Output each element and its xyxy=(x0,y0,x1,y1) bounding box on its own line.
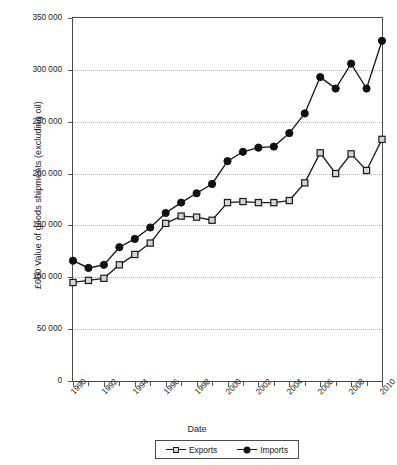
x-axis-title: Date xyxy=(0,424,394,434)
legend-item-imports: Imports xyxy=(237,445,288,455)
x-tick-label: 1992 xyxy=(100,377,119,396)
x-tick-label: 2008 xyxy=(347,377,366,396)
legend-label-exports: Exports xyxy=(189,445,217,455)
legend-swatch-exports xyxy=(166,449,186,450)
filled-circle-marker-icon xyxy=(244,447,251,454)
legend-swatch-imports xyxy=(237,449,257,450)
x-tick-label: 1998 xyxy=(193,377,212,396)
legend-item-exports: Exports xyxy=(166,445,217,455)
x-tick-label: 2006 xyxy=(316,377,335,396)
open-square-marker-icon xyxy=(173,447,179,453)
x-tick-label: 2002 xyxy=(254,377,273,396)
x-tick-label: 1994 xyxy=(131,377,150,396)
x-tick-label: 2010 xyxy=(378,377,397,396)
x-tick-label: 1996 xyxy=(162,377,181,396)
chart-legend: Exports Imports xyxy=(155,440,299,459)
x-tick-label: 2004 xyxy=(285,377,304,396)
legend-label-imports: Imports xyxy=(260,445,288,455)
x-tick-label: 2000 xyxy=(224,377,243,396)
x-tick-label: 1990 xyxy=(69,377,88,396)
